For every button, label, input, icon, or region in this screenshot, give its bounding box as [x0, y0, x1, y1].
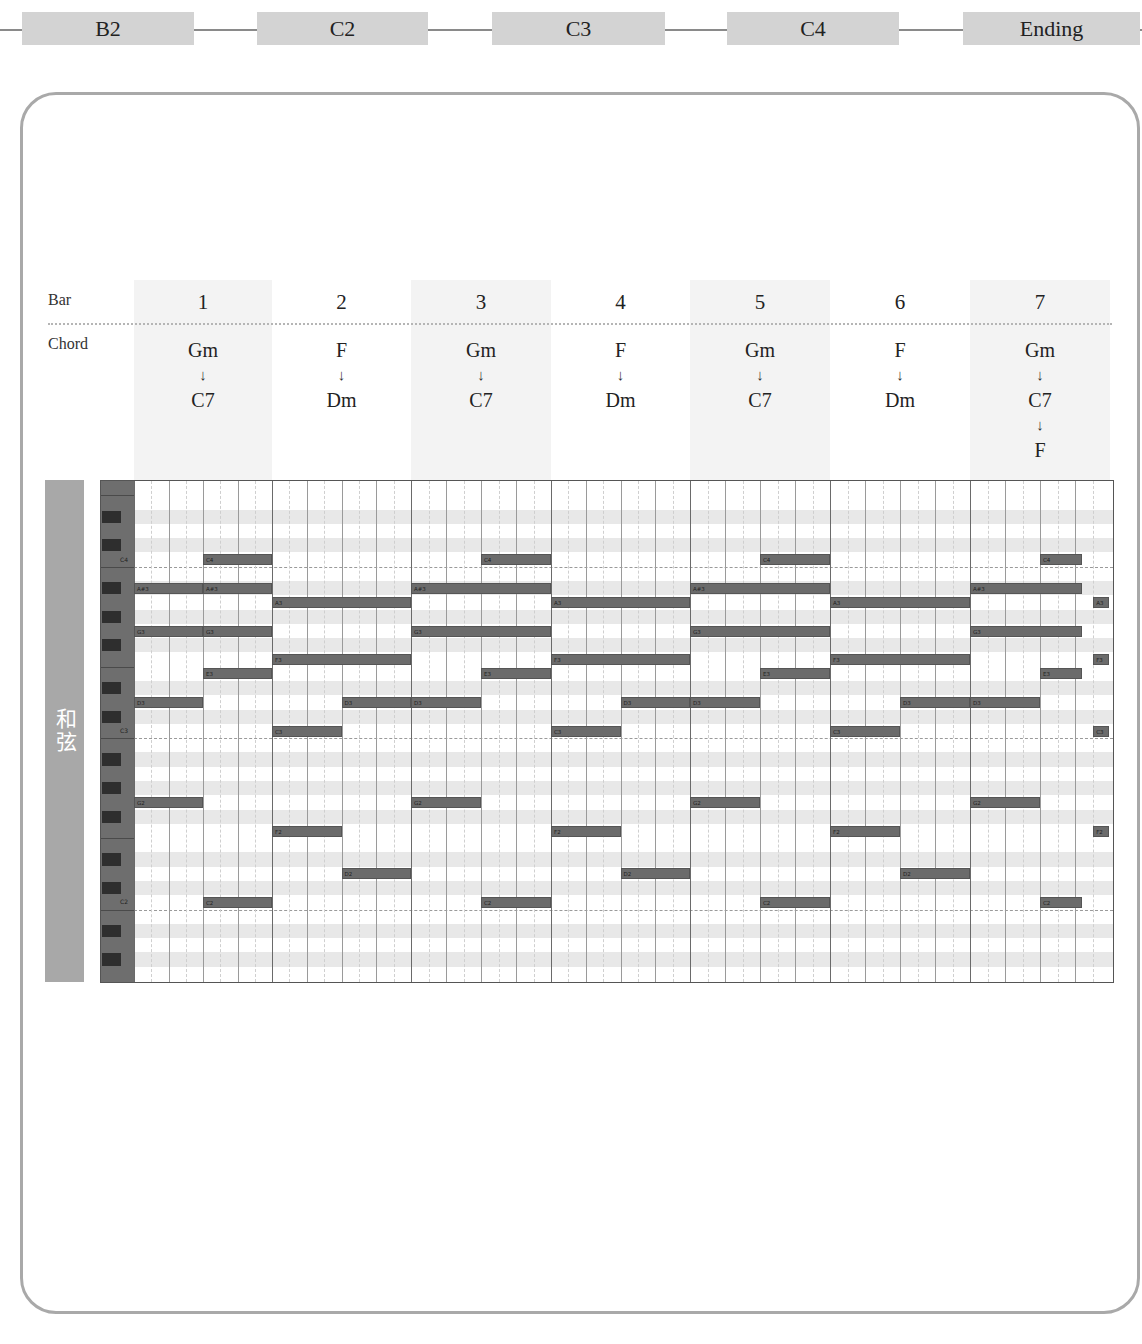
note-f2[interactable]: F2 — [1093, 826, 1108, 837]
note-asharp3[interactable]: A#3 — [411, 583, 551, 594]
black-key-row — [134, 610, 1113, 624]
note-a3[interactable]: A3 — [272, 597, 411, 608]
note-f2[interactable]: F2 — [272, 826, 342, 837]
note-label: D3 — [693, 699, 701, 707]
note-label: D2 — [624, 870, 632, 878]
note-d2[interactable]: D2 — [621, 868, 691, 879]
arrow-down-icon: ↓ — [338, 362, 346, 388]
note-g2[interactable]: G2 — [690, 797, 760, 808]
beat-line — [446, 481, 447, 982]
section-tab-c3: C3 — [492, 12, 665, 45]
header-divider — [48, 323, 1112, 325]
note-e3[interactable]: E3 — [203, 668, 272, 679]
beat-line — [151, 481, 152, 982]
note-label: C4 — [206, 556, 213, 564]
bar-number-5: 5 — [690, 290, 830, 315]
note-d3[interactable]: D3 — [411, 697, 481, 708]
chord-section-tag: 和弦 — [45, 480, 84, 982]
bar-line — [411, 481, 412, 982]
piano-roll: C4C3C2 A#3G3D3G2C4A#3G3E3C2A3F3C3F2D3D2A… — [100, 480, 1114, 983]
note-g2[interactable]: G2 — [970, 797, 1040, 808]
note-c2[interactable]: C2 — [1040, 897, 1082, 908]
beat-line — [743, 481, 744, 982]
note-d3[interactable]: D3 — [134, 697, 203, 708]
note-f3[interactable]: F3 — [551, 654, 690, 665]
piano-black-key — [102, 511, 121, 523]
note-f2[interactable]: F2 — [830, 826, 900, 837]
note-f3[interactable]: F3 — [830, 654, 970, 665]
note-a3[interactable]: A3 — [830, 597, 970, 608]
piano-keyboard: C4C3C2 — [101, 481, 134, 982]
beat-line — [342, 481, 343, 982]
note-asharp3[interactable]: A#3 — [134, 583, 203, 594]
note-c2[interactable]: C2 — [760, 897, 830, 908]
note-asharp3[interactable]: A#3 — [690, 583, 830, 594]
note-e3[interactable]: E3 — [1040, 668, 1082, 679]
section-tab-label: B2 — [95, 16, 121, 42]
note-g3[interactable]: G3 — [411, 626, 551, 637]
black-key-row — [134, 810, 1113, 824]
note-label: D3 — [137, 699, 145, 707]
chord-name: Gm — [1025, 338, 1055, 362]
note-a3[interactable]: A3 — [1093, 597, 1108, 608]
note-f3[interactable]: F3 — [1093, 654, 1108, 665]
note-asharp3[interactable]: A#3 — [970, 583, 1082, 594]
section-tab-label: C4 — [800, 16, 826, 42]
bar-row-label: Bar — [48, 291, 71, 309]
note-c3[interactable]: C3 — [830, 726, 900, 737]
note-label: A3 — [1096, 599, 1103, 607]
note-label: F3 — [554, 656, 561, 664]
section-tab-c2: C2 — [257, 12, 428, 45]
note-label: G2 — [693, 799, 701, 807]
note-d3[interactable]: D3 — [970, 697, 1040, 708]
note-d3[interactable]: D3 — [342, 697, 412, 708]
note-c3[interactable]: C3 — [1093, 726, 1108, 737]
note-f3[interactable]: F3 — [272, 654, 411, 665]
arrow-down-icon: ↓ — [1036, 412, 1044, 438]
key-label-c4: C4 — [120, 556, 128, 563]
note-c3[interactable]: C3 — [272, 726, 342, 737]
note-d3[interactable]: D3 — [690, 697, 760, 708]
note-g3[interactable]: G3 — [134, 626, 203, 637]
note-e3[interactable]: E3 — [760, 668, 830, 679]
note-label: F3 — [833, 656, 840, 664]
note-c4[interactable]: C4 — [481, 554, 551, 565]
beat-line — [935, 481, 936, 982]
note-c4[interactable]: C4 — [760, 554, 830, 565]
beat-line — [394, 481, 395, 982]
note-label: D2 — [903, 870, 911, 878]
note-d2[interactable]: D2 — [342, 868, 412, 879]
note-g3[interactable]: G3 — [690, 626, 830, 637]
note-g2[interactable]: G2 — [134, 797, 203, 808]
arrow-down-icon: ↓ — [1036, 362, 1044, 388]
beat-line — [359, 481, 360, 982]
note-g3[interactable]: G3 — [203, 626, 272, 637]
beat-line — [186, 481, 187, 982]
chord-name: C7 — [191, 388, 214, 412]
note-c2[interactable]: C2 — [481, 897, 551, 908]
chord-name: Gm — [188, 338, 218, 362]
beat-line — [673, 481, 674, 982]
black-key-row — [134, 510, 1113, 524]
piano-key-divider — [101, 567, 134, 568]
note-f2[interactable]: F2 — [551, 826, 621, 837]
note-label: D3 — [414, 699, 422, 707]
note-e3[interactable]: E3 — [481, 668, 551, 679]
note-c3[interactable]: C3 — [551, 726, 621, 737]
note-c2[interactable]: C2 — [203, 897, 272, 908]
note-c4[interactable]: C4 — [1040, 554, 1082, 565]
note-a3[interactable]: A3 — [551, 597, 690, 608]
note-g2[interactable]: G2 — [411, 797, 481, 808]
note-label: C2 — [1043, 899, 1050, 907]
note-label: C2 — [484, 899, 491, 907]
arrow-down-icon: ↓ — [477, 362, 485, 388]
note-c4[interactable]: C4 — [203, 554, 272, 565]
note-d3[interactable]: D3 — [900, 697, 970, 708]
note-asharp3[interactable]: A#3 — [203, 583, 272, 594]
note-d2[interactable]: D2 — [900, 868, 970, 879]
chord-name: F — [894, 338, 905, 362]
note-g3[interactable]: G3 — [970, 626, 1082, 637]
note-d3[interactable]: D3 — [621, 697, 691, 708]
black-key-row — [134, 710, 1113, 724]
beat-line — [1005, 481, 1006, 982]
